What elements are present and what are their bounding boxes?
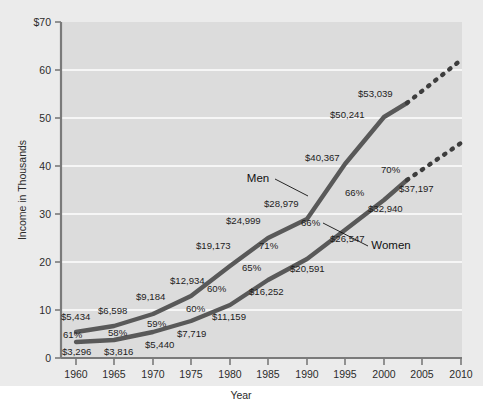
ratio-label-1975: 60% xyxy=(186,303,206,314)
men-label-1965: $6,598 xyxy=(98,305,127,316)
y-tick-70: $70 xyxy=(33,16,51,28)
x-tick-2000: 2000 xyxy=(372,368,396,380)
men-label-2003: $53,039 xyxy=(358,88,393,99)
x-tick-1990: 1990 xyxy=(295,368,319,380)
x-tick-1975: 1975 xyxy=(179,368,203,380)
men-label-1995: $40,367 xyxy=(305,152,340,163)
ratio-label-1980: 60% xyxy=(207,283,227,294)
ratio-label-1960: 61% xyxy=(63,329,83,340)
women-label-1965: $3,816 xyxy=(104,346,133,357)
x-tick-1985: 1985 xyxy=(256,368,280,380)
y-tick-20: 20 xyxy=(39,256,51,268)
ratio-label-2000: 66% xyxy=(345,187,365,198)
men-series-label: Men xyxy=(247,172,269,184)
y-tick-30: 30 xyxy=(39,208,51,220)
women-label-1960: $3,296 xyxy=(62,346,91,357)
x-tick-1970: 1970 xyxy=(141,368,165,380)
x-tick-2010: 2010 xyxy=(449,368,473,380)
ratio-label-1990: 71% xyxy=(259,240,279,251)
x-axis-title: Year xyxy=(230,389,252,401)
men-label-1990: $28,979 xyxy=(264,198,299,209)
income-gap-line-chart: $70 60 50 40 30 20 10 0 1960 1965 1970 1… xyxy=(0,0,483,411)
women-label-1995: $26,547 xyxy=(330,233,365,244)
chart-canvas: $70 60 50 40 30 20 10 0 1960 1965 1970 1… xyxy=(0,0,483,411)
x-tick-1960: 1960 xyxy=(64,368,88,380)
x-tick-2005: 2005 xyxy=(410,368,434,380)
y-axis-title: Income in Thousands xyxy=(16,140,28,240)
women-label-1990: $20,591 xyxy=(290,263,325,274)
women-label-2000: $32,940 xyxy=(368,203,403,214)
men-label-1980: $19,173 xyxy=(196,240,231,251)
y-tick-10: 10 xyxy=(39,304,51,316)
y-tick-60: 60 xyxy=(39,64,51,76)
y-tick-50: 50 xyxy=(39,112,51,124)
ratio-label-1970: 59% xyxy=(147,318,167,329)
y-tick-0: 0 xyxy=(45,352,51,364)
women-label-1980: $11,159 xyxy=(212,311,246,322)
x-tick-1980: 1980 xyxy=(218,368,242,380)
men-label-1960: $5,434 xyxy=(61,311,91,322)
men-label-1985: $24,999 xyxy=(226,215,261,226)
x-tick-1965: 1965 xyxy=(102,368,126,380)
women-series-label: Women xyxy=(371,239,410,251)
x-axis-tick-labels: 1960 1965 1970 1975 1980 1985 1990 1995 … xyxy=(64,368,473,380)
ratio-label-2003: 70% xyxy=(381,164,401,175)
y-tick-40: 40 xyxy=(39,160,51,172)
men-label-1970: $9,184 xyxy=(136,291,166,302)
women-label-2003: $37,197 xyxy=(399,183,434,194)
women-label-1970: $5,440 xyxy=(145,339,174,350)
ratio-label-1985: 65% xyxy=(242,262,262,273)
ratio-label-1965: 58% xyxy=(108,327,128,338)
women-label-1975: $7,719 xyxy=(177,328,206,339)
women-label-1985: $16,252 xyxy=(249,286,284,297)
men-label-1975: $12,934 xyxy=(170,275,205,286)
men-label-2000: $50,241 xyxy=(330,109,365,120)
x-tick-1995: 1995 xyxy=(333,368,357,380)
ratio-label-1995: 66% xyxy=(301,217,321,228)
